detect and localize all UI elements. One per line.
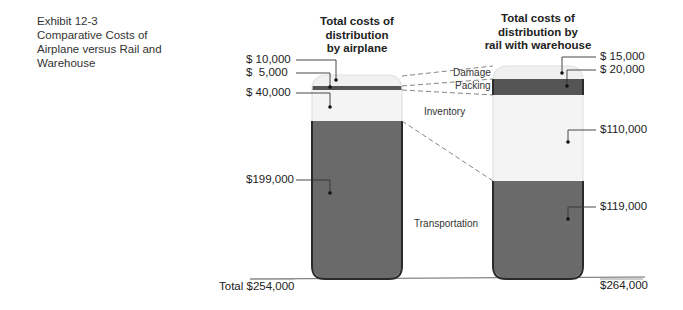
airplane-inventory-value: $ 40,000: [246, 86, 291, 98]
rail-damage-value: $ 15,000: [600, 50, 645, 62]
segment-packing: [493, 79, 583, 95]
segment-damage: [493, 66, 583, 79]
rail-total: $264,000: [600, 279, 648, 291]
rail-transportation-value: $119,000: [600, 200, 647, 212]
segment-transportation: [493, 181, 583, 279]
segment-label-inventory: Inventory: [424, 106, 465, 117]
stacked-bar-chart: [0, 0, 683, 310]
segment-transportation: [312, 121, 402, 279]
rail-bar: [493, 66, 583, 279]
segment-label-damage: Damage: [453, 67, 491, 78]
segment-inventory: [493, 95, 583, 181]
rail-inventory-value: $110,000: [600, 123, 647, 135]
segment-packing: [312, 86, 402, 90]
segment-damage: [312, 75, 402, 86]
airplane-packing-value: $ 5,000: [246, 66, 288, 78]
airplane-total: Total $254,000: [219, 280, 294, 292]
airplane-damage-value: $ 10,000: [246, 53, 291, 65]
baseline: [250, 277, 645, 279]
airplane-transportation-value: $199,000: [246, 173, 294, 185]
segment-label-packing: Packing: [455, 80, 491, 91]
segment-inventory: [312, 90, 402, 121]
rail-packing-value: $ 20,000: [600, 63, 645, 75]
airplane-bar: [312, 75, 402, 279]
segment-label-transportation: Transportation: [414, 218, 478, 229]
